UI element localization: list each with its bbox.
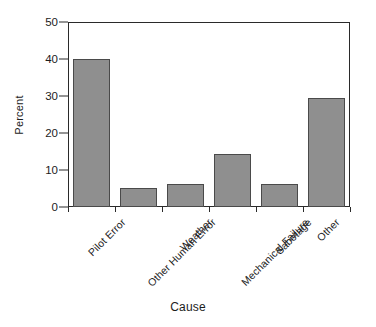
x-axis-tick-mark — [303, 207, 304, 212]
bar — [214, 154, 251, 207]
plot-area — [68, 22, 350, 207]
y-axis-tick-label: 30 — [45, 91, 58, 102]
bar — [120, 188, 157, 207]
x-axis-tick-mark — [209, 207, 210, 212]
bar — [308, 98, 345, 207]
y-axis-tick-label: 10 — [45, 165, 58, 176]
x-axis-category-label: Pilot Error — [86, 217, 128, 259]
bar — [73, 59, 110, 207]
x-axis-tick-mark — [115, 207, 116, 212]
y-axis-tick-mark — [59, 170, 68, 171]
y-axis-tick-labels: 01020304050 — [34, 0, 58, 327]
y-axis-tick-mark — [59, 133, 68, 134]
bar — [167, 184, 204, 207]
y-axis-tick-label: 40 — [45, 54, 58, 65]
y-axis-tick-mark — [59, 207, 68, 208]
bar-chart: Percent 01020304050 Cause Pilot ErrorOth… — [0, 0, 376, 327]
y-axis-title: Percent — [13, 75, 25, 155]
x-axis-title: Cause — [0, 300, 376, 314]
y-axis-tick-mark — [59, 96, 68, 97]
bar — [261, 184, 298, 207]
y-axis-tick-label: 0 — [52, 202, 58, 213]
y-axis-tick-mark — [59, 22, 68, 23]
x-axis-category-label: Other — [314, 217, 341, 244]
x-axis-tick-mark — [256, 207, 257, 212]
x-axis-category-label: Weather — [177, 217, 213, 253]
x-axis-category-label: Sabotage — [273, 217, 313, 257]
y-axis-tick-label: 50 — [45, 17, 58, 28]
y-axis-tick-label: 20 — [45, 128, 58, 139]
x-axis-tick-mark — [162, 207, 163, 212]
x-axis-tick-mark — [350, 207, 351, 212]
y-axis-tick-mark — [59, 59, 68, 60]
x-axis-tick-mark — [68, 207, 69, 212]
